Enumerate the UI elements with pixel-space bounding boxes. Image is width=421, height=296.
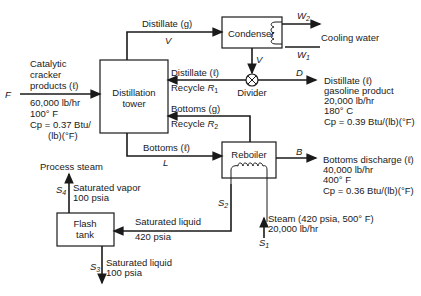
bottoms-discharge-temp: 400° F <box>323 174 351 185</box>
reboiler: Reboiler <box>222 142 276 222</box>
feed-cp: Cp = 0.37 Btu/ <box>30 119 91 130</box>
distillation-tower-label: Distillation <box>112 87 155 98</box>
feed-label: cracker <box>30 69 61 80</box>
w2-symbol: W2 <box>297 10 310 22</box>
s4-symbol: S4 <box>56 184 66 196</box>
divider-label: Divider <box>237 87 267 98</box>
distillate-product-cp: Cp = 0.39 Btu/(lb)(°F) <box>324 116 415 127</box>
bottoms-liquid-label: Bottoms (ℓ) <box>143 142 190 153</box>
flash-vapor-pressure: 100 psia <box>73 192 110 203</box>
condensate-pressure: 420 psia <box>135 231 172 242</box>
feed-flow: 60,000 lb/hr <box>30 97 80 108</box>
flash-tank-label-2: tank <box>76 229 94 240</box>
divider: Divider <box>237 74 267 98</box>
flash-liquid-pressure: 100 psia <box>106 267 143 278</box>
cooling-water-label: Cooling water <box>321 32 379 43</box>
recycle-r2-label: Bottoms (g) <box>171 103 220 114</box>
feed-label: products (ℓ) <box>30 80 78 91</box>
condenser: Condenser <box>222 17 282 48</box>
condenser-label: Condenser <box>228 28 274 39</box>
distillation-tower-label-2: tower <box>122 98 145 109</box>
flash-tank-label: Flash <box>73 218 96 229</box>
steam-in-flow: 20,000 lb/hr <box>268 223 318 234</box>
recycle-r1-label: Distillate (ℓ) <box>171 67 219 78</box>
distillate-product-temp: 180° C <box>324 105 353 116</box>
feed-label: Catalytic <box>30 58 67 69</box>
s1-symbol: S1 <box>259 237 269 249</box>
feed-cp-units: (lb)(°F) <box>48 130 78 141</box>
bottoms-discharge-symbol: B <box>296 146 303 157</box>
distillate-vapor-label: Distillate (g) <box>142 18 192 29</box>
w1-symbol: W1 <box>297 49 310 61</box>
feed-symbol: F <box>5 89 12 100</box>
s2-symbol: S2 <box>218 197 228 209</box>
distillate-vapor-symbol: V <box>165 35 173 46</box>
condensate-symbol: V <box>256 54 264 65</box>
process-flow-diagram: Distillation tower Condenser Divider Reb… <box>0 0 421 296</box>
condensate-label: Saturated liquid <box>135 216 201 227</box>
distillation-tower: Distillation tower <box>100 60 168 133</box>
s3-symbol: S3 <box>90 261 100 273</box>
recycle-r2-symbol: Recycle R2 <box>171 118 218 130</box>
distillate-vapor-stream <box>127 32 222 60</box>
bottoms-discharge-cp: Cp = 0.36 Btu/(lb)(°F) <box>323 185 414 196</box>
distillate-product-symbol: D <box>296 67 303 78</box>
flash-tank: Flash tank <box>57 213 114 246</box>
recycle-r1-symbol: Recycle R1 <box>171 82 218 94</box>
bottoms-liquid-symbol: L <box>163 157 168 168</box>
reboiler-label: Reboiler <box>231 149 266 160</box>
feed-temp: 100° F <box>30 108 58 119</box>
process-steam-label: Process steam <box>40 161 103 172</box>
